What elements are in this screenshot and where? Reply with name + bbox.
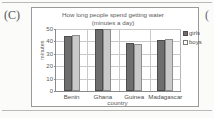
legend-item-boys: boys — [183, 39, 213, 45]
bar-girls — [157, 40, 165, 91]
bar-group — [150, 29, 181, 91]
bar-girls — [126, 43, 134, 91]
y-tick-label: 10 — [46, 76, 53, 82]
y-tick-label: 40 — [46, 38, 53, 44]
chart-legend: girls boys — [183, 30, 213, 48]
bar-group — [87, 29, 118, 91]
legend-swatch-boys-icon — [183, 40, 188, 45]
y-axis-title: minutes — [39, 40, 45, 60]
chart-frame: How long people spend getting water (min… — [31, 7, 199, 107]
bar-girls — [95, 29, 103, 91]
bar-boys — [103, 29, 111, 91]
legend-label-boys: boys — [189, 39, 202, 45]
bar-girls — [64, 36, 72, 91]
chart-title-line2: (minutes a day) — [40, 19, 186, 27]
plot-area: 01020304050 BeninGhanaGuineaMadagascar — [55, 29, 181, 92]
y-tick-label: 50 — [46, 26, 53, 32]
chart-title-line1: How long people spend getting water — [62, 11, 164, 18]
bar-boys — [134, 44, 142, 91]
bar-boys — [165, 39, 173, 91]
bar-group — [119, 29, 150, 91]
next-part-label: ( — [205, 8, 209, 23]
page-root: (C) ( How long people spend getting wate… — [0, 0, 214, 118]
y-tick-mark — [54, 91, 56, 92]
legend-swatch-girls-icon — [183, 31, 188, 36]
chart-title: How long people spend getting water (min… — [40, 11, 186, 26]
bar-group — [56, 29, 87, 91]
bar-boys — [72, 35, 80, 91]
part-label: (C) — [4, 8, 20, 23]
y-tick-label: 20 — [46, 63, 53, 69]
legend-label-girls: girls — [189, 30, 200, 36]
legend-item-girls: girls — [183, 30, 213, 36]
x-axis-title: country — [55, 99, 180, 106]
page-rule-top — [2, 2, 212, 3]
page-rule-bottom — [2, 110, 212, 111]
y-tick-label: 30 — [46, 51, 53, 57]
y-tick-label: 0 — [50, 88, 53, 94]
